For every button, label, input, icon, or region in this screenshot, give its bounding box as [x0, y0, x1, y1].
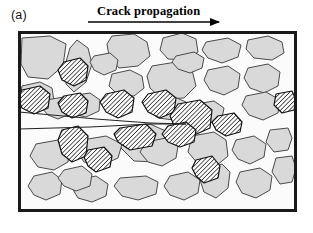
microstructure-diagram [0, 0, 313, 233]
figure-panel: (a) Crack propagation [0, 0, 313, 233]
